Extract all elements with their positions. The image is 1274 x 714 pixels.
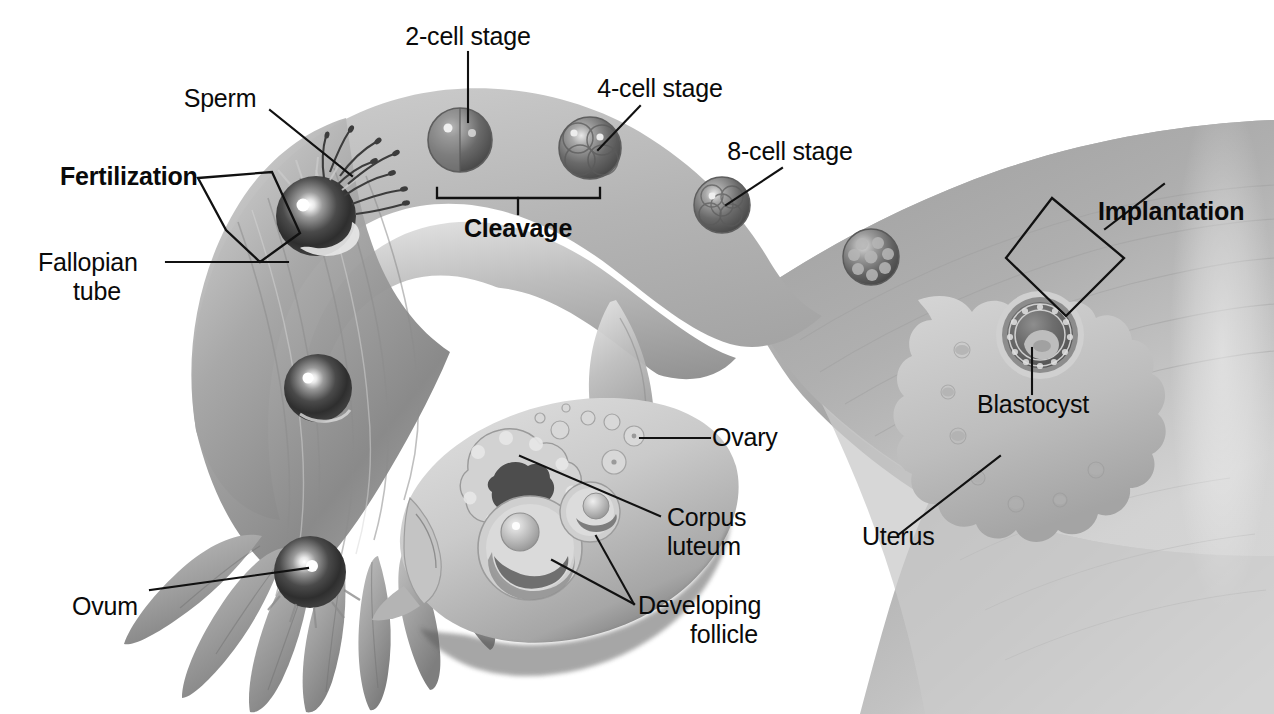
two-cell-stage-embryo — [428, 108, 492, 172]
label-fallopian-tube-line1: Fallopian — [38, 248, 138, 277]
blastocyst-structure — [996, 291, 1084, 379]
label-developing-follicle-line2: follicle — [638, 620, 810, 649]
label-8-cell-stage: 8-cell stage — [690, 137, 890, 166]
label-uterus: Uterus — [862, 522, 934, 551]
label-2-cell-stage: 2-cell stage — [378, 22, 558, 51]
label-corpus-luteum-line2: luteum — [667, 532, 741, 561]
label-cleavage: Cleavage — [438, 214, 598, 243]
label-fallopian-tube-line2: tube — [38, 277, 156, 306]
label-sperm: Sperm — [140, 84, 300, 113]
label-ovary: Ovary — [712, 423, 778, 452]
label-4-cell-stage: 4-cell stage — [560, 74, 760, 103]
ovum-mid — [284, 354, 352, 422]
secondary-follicle — [560, 482, 620, 542]
label-fertilization: Fertilization — [60, 162, 198, 191]
morula — [843, 229, 899, 285]
label-developing-follicle-line1: Developing — [638, 591, 761, 620]
label-ovum: Ovum — [72, 592, 138, 621]
four-cell-stage-embryo — [559, 117, 621, 179]
label-blastocyst: Blastocyst — [955, 390, 1111, 419]
figure-canvas: Sperm Fertilization Fallopian tube 2-cel… — [0, 0, 1274, 714]
eight-cell-stage-embryo — [694, 177, 750, 233]
label-corpus-luteum-line1: Corpus — [667, 503, 746, 532]
label-implantation: Implantation — [1098, 197, 1244, 226]
